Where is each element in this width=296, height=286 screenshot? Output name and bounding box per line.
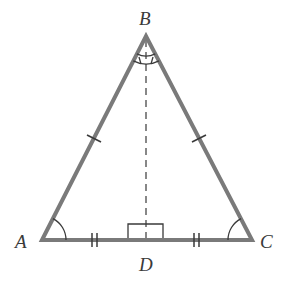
angle-arc-a bbox=[53, 219, 66, 240]
label-c: C bbox=[260, 231, 273, 252]
angle-arc-b-outer bbox=[133, 61, 159, 64]
triangle-abc bbox=[42, 36, 252, 240]
angle-arc-c bbox=[228, 219, 241, 240]
label-b: B bbox=[139, 8, 151, 29]
triangle-diagram: B A C D bbox=[0, 0, 296, 286]
label-d: D bbox=[138, 254, 153, 275]
label-a: A bbox=[13, 231, 27, 252]
